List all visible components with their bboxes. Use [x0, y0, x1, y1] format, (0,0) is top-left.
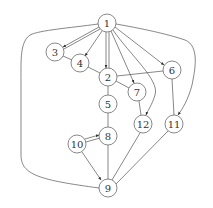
edge-1-3-b [64, 29, 100, 49]
edge-1-6 [115, 27, 164, 65]
svg-text:7: 7 [134, 87, 140, 98]
svg-text:1: 1 [104, 18, 110, 29]
edge-2-7 [116, 81, 129, 88]
node-4[interactable]: 4 [71, 54, 89, 72]
nodes: 1 3 4 2 6 7 5 12 11 8 10 9 [46, 14, 183, 197]
node-9[interactable]: 9 [99, 179, 117, 197]
node-1[interactable]: 1 [98, 14, 116, 32]
edge-1-4 [85, 31, 102, 56]
svg-text:6: 6 [169, 65, 175, 76]
edge-2-6 [117, 71, 163, 76]
svg-text:9: 9 [105, 183, 111, 194]
node-8[interactable]: 8 [99, 127, 117, 145]
edge-10-8-b [86, 138, 100, 142]
svg-text:8: 8 [105, 131, 111, 142]
svg-text:5: 5 [105, 99, 111, 110]
svg-text:11: 11 [168, 119, 181, 130]
edge-7-12 [139, 101, 141, 115]
edge-10-8-a [85, 135, 99, 139]
node-3[interactable]: 3 [46, 43, 64, 61]
node-7[interactable]: 7 [128, 83, 146, 101]
node-12[interactable]: 12 [134, 115, 152, 133]
node-5[interactable]: 5 [99, 95, 117, 113]
node-6[interactable]: 6 [163, 61, 181, 79]
node-11[interactable]: 11 [165, 115, 183, 133]
graph-canvas: 1 3 4 2 6 7 5 12 11 8 10 9 [0, 0, 213, 208]
node-10[interactable]: 10 [68, 135, 86, 153]
edge-10-9 [82, 152, 101, 180]
svg-text:4: 4 [77, 58, 83, 69]
edge-6-11 [172, 79, 174, 115]
svg-text:10: 10 [71, 139, 84, 150]
node-2[interactable]: 2 [99, 68, 117, 86]
svg-text:3: 3 [52, 47, 58, 58]
edge-3-4 [63, 56, 72, 60]
svg-text:2: 2 [105, 72, 111, 83]
edge-11-9 [116, 131, 168, 184]
edge-1-3-a [63, 27, 99, 47]
svg-text:12: 12 [137, 119, 150, 130]
edge-4-2 [88, 67, 100, 73]
